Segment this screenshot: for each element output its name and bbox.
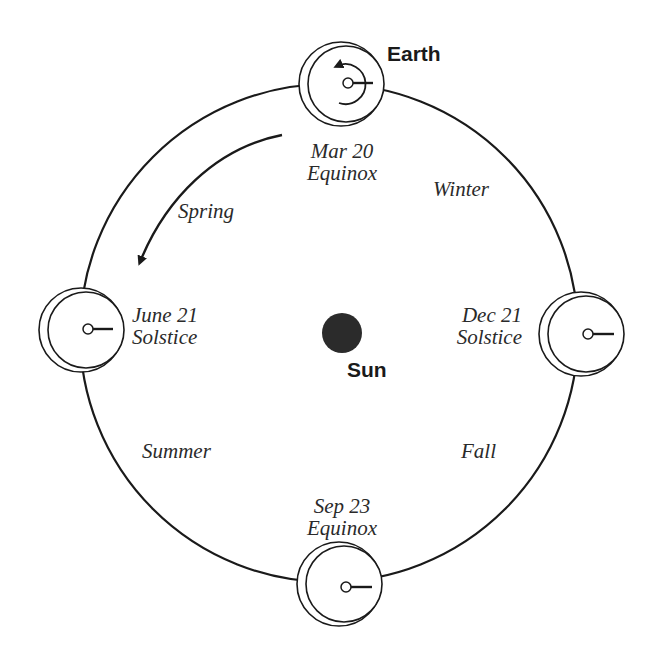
season-summer: Summer xyxy=(142,440,211,462)
dec-label: Dec 21 Solstice xyxy=(442,304,522,348)
season-fall: Fall xyxy=(461,440,496,462)
mar-date: Mar 20 xyxy=(296,140,388,162)
dec-date: Dec 21 xyxy=(442,304,522,326)
earth-icon-jun xyxy=(39,288,124,372)
jun-event: Solstice xyxy=(132,326,198,348)
season-spring: Spring xyxy=(178,200,234,222)
earth-icon-mar xyxy=(299,42,384,126)
sun-label: Sun xyxy=(347,358,387,382)
earth-label: Earth xyxy=(387,42,441,66)
dec-event: Solstice xyxy=(442,326,522,348)
mar-event: Equinox xyxy=(296,162,388,184)
season-winter: Winter xyxy=(433,178,489,200)
earth-icon-sep xyxy=(297,542,382,626)
sun-icon xyxy=(322,313,362,353)
sep-label: Sep 23 Equinox xyxy=(296,495,388,539)
jun-date: June 21 xyxy=(132,304,198,326)
sep-date: Sep 23 xyxy=(296,495,388,517)
mar-label: Mar 20 Equinox xyxy=(296,140,388,184)
sep-event: Equinox xyxy=(296,517,388,539)
jun-label: June 21 Solstice xyxy=(132,304,198,348)
orbit-diagram xyxy=(0,0,654,648)
earth-icon-dec xyxy=(539,292,624,376)
